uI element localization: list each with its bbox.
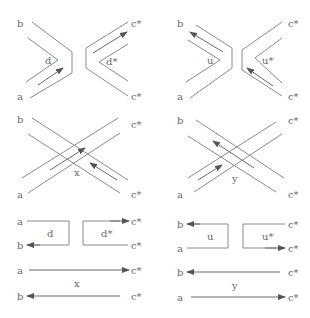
end-label: a xyxy=(17,216,23,227)
panel-bottom-left-split: a b c* c* d d* xyxy=(17,216,142,251)
end-label: c* xyxy=(131,216,142,227)
end-label: a xyxy=(177,292,183,303)
end-label: c* xyxy=(131,18,142,29)
strand-label: y xyxy=(231,280,238,291)
end-label: c* xyxy=(288,219,299,230)
end-label: c* xyxy=(288,91,299,102)
end-label: b xyxy=(177,115,183,126)
strand-label: d xyxy=(45,55,52,66)
end-label: c* xyxy=(288,189,299,200)
end-label: c* xyxy=(131,291,142,302)
end-label: b xyxy=(177,267,183,278)
panel-bottom-right-split: b a c* c* u u* xyxy=(177,219,299,254)
end-label: c* xyxy=(131,189,142,200)
end-label: a xyxy=(17,91,23,102)
end-label: c* xyxy=(288,292,299,303)
end-label: b xyxy=(17,18,23,29)
strand-label: u* xyxy=(262,231,273,242)
end-label: c* xyxy=(288,243,299,254)
end-label: c* xyxy=(131,265,142,276)
end-label: a xyxy=(177,189,183,200)
end-label: b xyxy=(17,114,23,125)
end-label: c* xyxy=(131,91,142,102)
panel-top-right: b a c* c* u u* xyxy=(177,18,299,102)
strand-label: u xyxy=(207,231,214,242)
strand-label: x xyxy=(74,167,80,178)
strand-label: y xyxy=(231,173,238,184)
panel-bottom-right-straight: b a c* c* y xyxy=(177,267,299,303)
strand-label: u* xyxy=(262,55,273,66)
end-label: b xyxy=(177,18,183,29)
panel-mid-left: b a c* c* x xyxy=(17,114,142,200)
panel-bottom-left-straight: a b c* c* x xyxy=(17,265,142,302)
end-label: b xyxy=(17,291,23,302)
end-label: a xyxy=(17,189,23,200)
end-label: a xyxy=(177,91,183,102)
strand-label: x xyxy=(74,278,80,289)
strand-label: u xyxy=(207,55,214,66)
strand-label: d* xyxy=(106,56,117,67)
strand-exchange-diagram: b a c* c* d d* b a c* c* u u* b a xyxy=(0,0,310,318)
strand-label: d* xyxy=(101,228,112,239)
end-label: c* xyxy=(131,119,142,130)
end-label: c* xyxy=(131,240,142,251)
end-label: c* xyxy=(288,18,299,29)
end-label: b xyxy=(17,240,23,251)
end-label: c* xyxy=(288,115,299,126)
strand-label: d xyxy=(47,228,54,239)
end-label: c* xyxy=(288,267,299,278)
end-label: b xyxy=(177,219,183,230)
panel-top-left: b a c* c* d d* xyxy=(17,18,142,102)
end-label: a xyxy=(177,243,183,254)
end-label: a xyxy=(17,265,23,276)
panel-mid-right: b a c* c* y xyxy=(177,115,299,200)
